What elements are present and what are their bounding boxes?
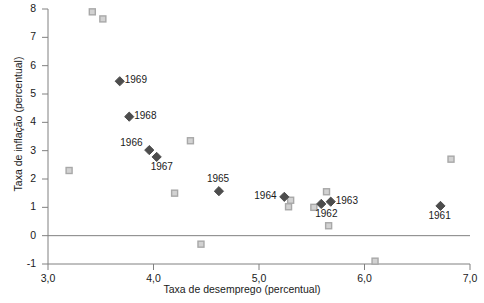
data-point-square <box>326 223 332 229</box>
x-axis-title: Taxa de desemprego (percentual) <box>0 283 484 295</box>
x-tick-label: 4,0 <box>134 272 174 284</box>
data-point-square <box>288 197 294 203</box>
y-tick-label: 7 <box>10 30 36 42</box>
data-point-label: 1967 <box>151 161 173 172</box>
data-point-label: 1964 <box>254 190 276 201</box>
x-tick-label: 3,0 <box>28 272 68 284</box>
data-point-label: 1968 <box>134 110 156 121</box>
y-tick-label: 8 <box>10 2 36 14</box>
data-point-diamond <box>214 187 223 196</box>
data-point-label: 1965 <box>207 173 229 184</box>
y-tick-label: 4 <box>10 115 36 127</box>
data-point-square <box>448 156 454 162</box>
x-tick-label: 7,0 <box>450 272 484 284</box>
x-tick-label: 5,0 <box>239 272 279 284</box>
data-point-diamond <box>145 146 154 155</box>
data-point-square <box>372 258 378 264</box>
data-point-square <box>324 189 330 195</box>
data-point-label: 1969 <box>125 74 147 85</box>
plot-area <box>0 0 484 303</box>
data-point-square <box>187 138 193 144</box>
x-tick-label: 6,0 <box>345 272 385 284</box>
data-point-label: 1962 <box>315 208 337 219</box>
data-point-label: 1963 <box>336 195 358 206</box>
y-tick-label: 0 <box>10 229 36 241</box>
y-tick-label: 5 <box>10 87 36 99</box>
data-point-square <box>172 190 178 196</box>
scatter-chart: Taxa de inflação (percentual) Taxa de de… <box>0 0 484 303</box>
data-point-square <box>286 204 292 210</box>
y-tick-label: 2 <box>10 172 36 184</box>
y-tick-label: 1 <box>10 200 36 212</box>
data-point-diamond <box>326 197 335 206</box>
y-tick-label: 6 <box>10 59 36 71</box>
data-point-diamond <box>115 77 124 86</box>
data-point-square <box>89 9 95 15</box>
y-tick-label: -1 <box>10 257 36 269</box>
data-point-square <box>198 241 204 247</box>
data-point-square <box>100 16 106 22</box>
data-point-label: 1961 <box>428 210 450 221</box>
data-point-label: 1966 <box>120 137 142 148</box>
data-point-square <box>66 168 72 174</box>
data-point-diamond <box>125 112 134 121</box>
y-tick-label: 3 <box>10 144 36 156</box>
